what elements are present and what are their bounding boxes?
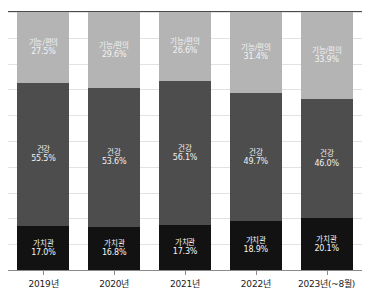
segment-value-label: 20.1% — [314, 244, 338, 254]
segment-name-label: 건강 — [107, 148, 121, 157]
segment-value-label: 33.9% — [314, 55, 338, 65]
x-axis-tick — [114, 270, 115, 275]
bar-segment[interactable]: 가치관18.9% — [230, 221, 282, 270]
segment-name-label: 건강 — [37, 145, 51, 154]
bar-segment[interactable]: 건강56.1% — [159, 81, 211, 226]
bar-group[interactable]: 기능/편의33.9%건강46.0%가치관20.1% — [301, 12, 353, 270]
segment-value-label: 29.6% — [102, 50, 126, 60]
bar-group[interactable]: 기능/편의29.6%건강53.6%가치관16.8% — [88, 12, 140, 270]
x-axis-tick — [256, 270, 257, 275]
segment-name-label: 건강 — [178, 144, 192, 153]
bar-segment[interactable]: 건강46.0% — [301, 99, 353, 218]
bar-segment[interactable]: 건강53.6% — [88, 88, 140, 226]
plot-area: 기능/편의27.5%건강55.5%가치관17.0%기능/편의29.6%건강53.… — [8, 12, 362, 270]
bar-segment[interactable]: 기능/편의31.4% — [230, 12, 282, 93]
segment-value-label: 56.1% — [173, 153, 197, 163]
bar-segment[interactable]: 기능/편의29.6% — [88, 12, 140, 88]
segment-value-label: 17.3% — [173, 247, 197, 257]
segment-name-label: 기능/편의 — [312, 46, 342, 55]
x-axis-category-label: 2022년 — [220, 277, 291, 290]
bar-segment[interactable]: 기능/편의26.6% — [159, 12, 211, 81]
bar-segment[interactable]: 건강55.5% — [17, 83, 69, 226]
bar-segment[interactable]: 기능/편의27.5% — [17, 12, 69, 83]
x-axis-category-label: 2021년 — [150, 277, 221, 290]
segment-name-label: 가치관 — [316, 235, 336, 244]
x-axis-category-label: 2023년(~8월) — [291, 277, 362, 290]
x-axis-category-label: 2020년 — [79, 277, 150, 290]
segment-value-label: 46.0% — [314, 159, 338, 169]
segment-value-label: 55.5% — [31, 154, 55, 164]
x-axis-tick — [43, 270, 44, 275]
bar-segment[interactable]: 가치관16.8% — [88, 227, 140, 270]
segment-name-label: 건강 — [249, 148, 263, 157]
bar-group[interactable]: 기능/편의27.5%건강55.5%가치관17.0% — [17, 12, 69, 270]
segment-name-label: 기능/편의 — [99, 41, 129, 50]
segment-value-label: 27.5% — [31, 47, 55, 57]
segment-name-label: 건강 — [320, 149, 334, 158]
bar-group[interactable]: 기능/편의26.6%건강56.1%가치관17.3% — [159, 12, 211, 270]
bar-segment[interactable]: 가치관17.0% — [17, 226, 69, 270]
segment-value-label: 18.9% — [244, 245, 268, 255]
segment-value-label: 17.0% — [31, 248, 55, 258]
x-axis-tick — [327, 270, 328, 275]
bar-segment[interactable]: 가치관17.3% — [159, 225, 211, 270]
segment-name-label: 가치관 — [104, 239, 124, 248]
bar-segment[interactable]: 가치관20.1% — [301, 218, 353, 270]
segment-value-label: 49.7% — [244, 157, 268, 167]
segment-value-label: 26.6% — [173, 46, 197, 56]
segment-name-label: 가치관 — [246, 236, 266, 245]
segment-name-label: 기능/편의 — [29, 38, 59, 47]
segment-value-label: 53.6% — [102, 157, 126, 167]
bar-group[interactable]: 기능/편의31.4%건강49.7%가치관18.9% — [230, 12, 282, 270]
bar-segment[interactable]: 건강49.7% — [230, 93, 282, 221]
segment-name-label: 기능/편의 — [170, 37, 200, 46]
bar-segment[interactable]: 기능/편의33.9% — [301, 12, 353, 99]
segment-name-label: 가치관 — [175, 238, 195, 247]
segment-name-label: 기능/편의 — [241, 43, 271, 52]
x-axis-tick — [185, 270, 186, 275]
stacked-bar-chart: 기능/편의27.5%건강55.5%가치관17.0%기능/편의29.6%건강53.… — [0, 0, 370, 296]
x-axis-category-label: 2019년 — [8, 277, 79, 290]
segment-name-label: 가치관 — [33, 239, 53, 248]
segment-value-label: 31.4% — [244, 52, 268, 62]
segment-value-label: 16.8% — [102, 248, 126, 258]
